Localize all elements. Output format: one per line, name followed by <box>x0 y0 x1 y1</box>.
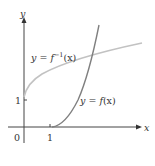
y-axis-label: y <box>20 9 25 19</box>
function-label: y = f(x) <box>80 96 116 106</box>
inverse-function-label: y = f−1(x) <box>31 52 76 63</box>
graph-canvas <box>0 0 155 166</box>
function-curve <box>52 25 99 127</box>
x-tick-label: 1 <box>47 133 53 143</box>
y-tick-label: 1 <box>15 96 21 106</box>
x-axis-arrow-icon <box>136 125 142 130</box>
origin-label: 0 <box>14 133 20 143</box>
x-axis-label: x <box>144 123 149 133</box>
